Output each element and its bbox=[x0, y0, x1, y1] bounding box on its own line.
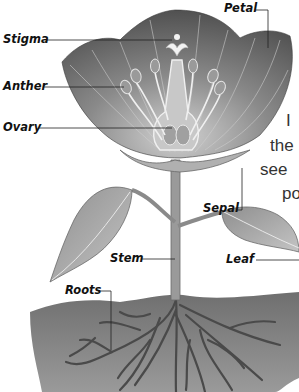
leaf-left bbox=[50, 187, 132, 282]
plant-diagram: Petal Stigma Anther Ovary Sepal Stem Lea… bbox=[0, 0, 299, 392]
side-text-line-2: the bbox=[270, 137, 294, 154]
side-text-line-1: I bbox=[286, 112, 291, 129]
side-text-line-3: see bbox=[260, 161, 287, 178]
label-roots: Roots bbox=[65, 285, 101, 297]
label-petal: Petal bbox=[224, 3, 257, 15]
side-text-line-4: po bbox=[282, 185, 299, 202]
label-sepal: Sepal bbox=[203, 203, 239, 215]
label-stigma: Stigma bbox=[3, 34, 49, 46]
label-stem: Stem bbox=[110, 253, 144, 265]
plant-illustration bbox=[0, 0, 299, 392]
stem bbox=[171, 160, 180, 300]
label-ovary: Ovary bbox=[3, 122, 41, 134]
label-anther: Anther bbox=[3, 81, 47, 93]
label-leaf: Leaf bbox=[226, 254, 254, 266]
